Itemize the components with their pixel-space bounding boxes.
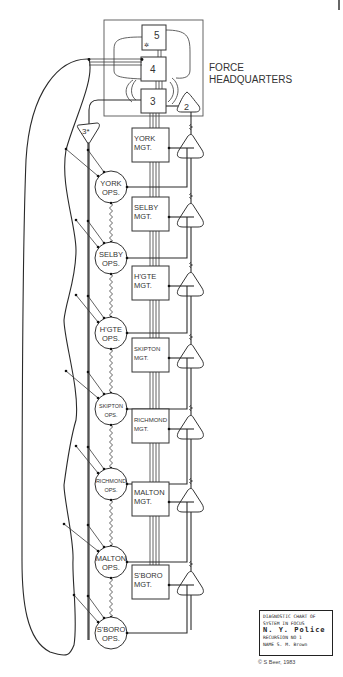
system-4-label: 4 [150,64,156,75]
ops-label: OPS. [102,188,120,197]
regulator-triangle [177,135,203,159]
mgt-label: MGT. [134,355,149,361]
system-3-label: 3 [150,96,156,107]
mgt-label: S'BORO [134,571,163,580]
card-name: NAME S. M. Brown [263,641,329,648]
mgt-label: MGT. [134,497,152,506]
copyright-text: © S Beer, 1983 [258,659,295,665]
title-line-2: HEADQUARTERS [209,74,292,86]
ops-label: YORK [100,179,121,188]
ops-circle [95,393,127,425]
mgt-label: SKIPTON [134,346,160,352]
s4-s3-arc-left [126,80,136,102]
ops-label: RICHMOND [96,478,126,484]
regulator-triangle [177,572,203,596]
s5-s4-loop-left [114,37,142,79]
unit-2: H'GTEMGT.H'GTEOPS. [75,262,204,394]
ops-label: OPS. [102,334,120,343]
unit-3: SKIPTONMGT.SKIPTONOPS. [65,334,204,469]
regulator-triangle [177,204,203,228]
ops-circle [95,468,127,500]
card-line-1: DIAGNOSTIC CHART OF [263,613,329,620]
ops-label: SKIPTON [99,403,123,409]
mgt-label: H'GTE [134,272,156,281]
unit-4: RICHMONDMGT.RICHMONDOPS. [75,405,204,547]
mgt-label: MGT. [134,580,152,589]
diagnostic-chart-card: DIAGNOSTIC CHART OF SYSTEM IN FOCUS N. Y… [259,610,333,656]
ops-label: MALTON [96,554,127,563]
viable-system-diagram: 5 ✲ 4 3 3* 2 YORKMGT.YORKOPS.SELBYMGT.SE… [0,0,343,677]
system-5-star-icon: ✲ [144,42,149,48]
mgt-label: SELBY [134,203,158,212]
card-recursion: RECURSION NO 1 [263,634,329,641]
force-headquarters-title: FORCE HEADQUARTERS [209,62,292,86]
ops-label: H'GTE [100,325,122,334]
regulator-triangle [177,273,203,297]
ops-label: OPS. [102,634,120,643]
system-2-label: 2 [184,102,189,112]
s5-s4-loop-right [165,30,190,78]
unit-6: S'BOROMGT.S'BOROOPS. [73,561,204,649]
regulator-triangle [177,489,203,513]
mgt-label: YORK [134,134,155,143]
mgt-label: MALTON [134,488,165,497]
ops-label: OPS. [104,487,118,493]
system-5-label: 5 [154,30,160,41]
card-system-name: N. Y. Police [263,627,329,634]
environment-loop [22,59,90,655]
s4-s3-arc-right [168,78,178,104]
mgt-label: MGT. [134,143,152,152]
regulator-triangle [177,345,203,369]
ops-label: SELBY [99,250,123,259]
mgt-label: MGT. [134,281,152,290]
mgt-label: RICHMOND [134,417,168,423]
ops-label: OPS. [104,412,118,418]
system-3-star-label: 3* [82,127,90,136]
ops-label: OPS. [102,259,120,268]
mgt-label: MGT. [134,212,152,221]
mgt-label: MGT. [134,426,149,432]
title-line-1: FORCE [209,62,292,74]
ops-label: S'BORO [97,625,126,634]
operational-units: YORKMGT.YORKOPS.SELBYMGT.SELBYOPS.H'GTEM… [63,124,204,649]
regulator-triangle [177,416,203,440]
ops-label: OPS. [102,563,120,572]
